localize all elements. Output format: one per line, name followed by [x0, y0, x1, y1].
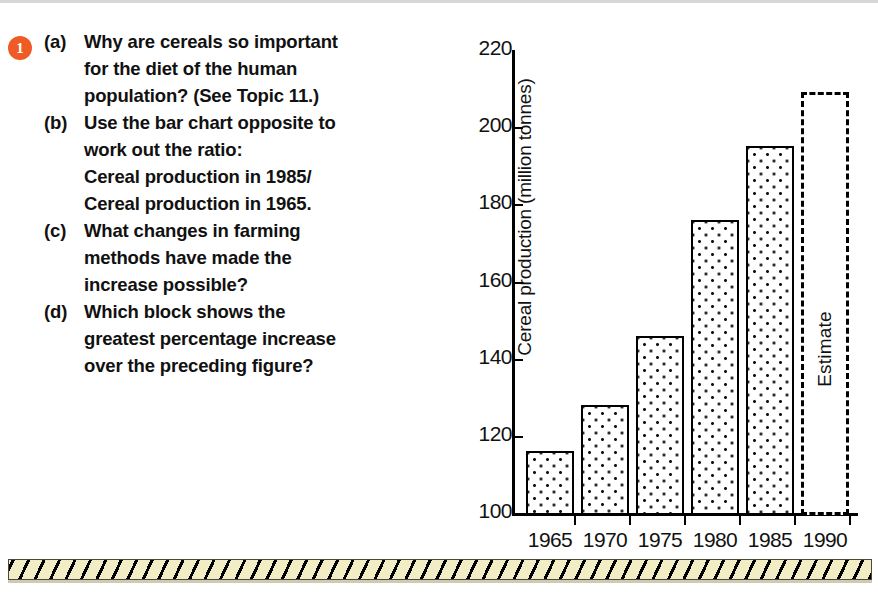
x-tick-label: 1990: [790, 528, 860, 552]
x-tick-mark: [684, 516, 686, 525]
question-label-a: (a): [44, 28, 78, 55]
decorative-hatched-band: [8, 559, 872, 580]
question-item-a: (a) Why are cereals so important for the…: [44, 28, 424, 109]
question-list: (a) Why are cereals so important for the…: [44, 28, 424, 379]
bar-series: 19651970197519801985Estimate1990: [440, 30, 878, 530]
question-line: work out the ratio:: [84, 136, 424, 163]
band-shadow: [8, 580, 872, 583]
question-line: for the diet of the human: [84, 55, 424, 82]
question-text-a: Why are cereals so important for the die…: [84, 28, 424, 109]
x-tick-mark: [739, 516, 741, 525]
question-text-c: What changes in farming methods have mad…: [84, 217, 424, 298]
question-label-d: (d): [44, 298, 78, 325]
question-text-d: Which block shows the greatest percentag…: [84, 298, 424, 379]
question-line: Why are cereals so important: [84, 28, 424, 55]
x-tick-mark: [849, 516, 851, 525]
question-line: methods have made the: [84, 244, 424, 271]
bar-1965: [526, 451, 574, 515]
question-label-b: (b): [44, 109, 78, 136]
y-tick-mark: [515, 282, 523, 284]
question-line: greatest percentage increase: [84, 325, 424, 352]
question-line: Use the bar chart opposite to: [84, 109, 424, 136]
question-line: Which block shows the: [84, 298, 424, 325]
bar-1975: [636, 336, 684, 515]
x-tick-mark: [629, 516, 631, 525]
question-item-d: (d) Which block shows the greatest perce…: [44, 298, 424, 379]
bar-chart: Cereal production (million tonnes) 10012…: [440, 30, 878, 550]
x-tick-mark: [794, 516, 796, 525]
question-item-b: (b) Use the bar chart opposite to work o…: [44, 109, 424, 217]
bar-1970: [581, 405, 629, 515]
y-tick-mark: [515, 513, 523, 515]
y-tick-mark: [515, 359, 523, 361]
question-label-c: (c): [44, 217, 78, 244]
question-line: Cereal production in 1985/: [84, 163, 424, 190]
question-line: population? (See Topic 11.): [84, 82, 424, 109]
question-text-b: Use the bar chart opposite to work out t…: [84, 109, 424, 217]
y-tick-mark: [515, 436, 523, 438]
question-item-c: (c) What changes in farming methods have…: [44, 217, 424, 298]
bar-1985: [746, 146, 794, 515]
bar-1980: [691, 220, 739, 515]
question-line: Cereal production in 1965.: [84, 190, 424, 217]
estimate-annotation-label: Estimate: [814, 289, 836, 409]
y-tick-mark: [515, 127, 523, 129]
x-tick-mark: [574, 516, 576, 525]
question-line: increase possible?: [84, 271, 424, 298]
top-divider: [0, 0, 878, 3]
question-line: over the preceding figure?: [84, 352, 424, 379]
page-root: 1 (a) Why are cereals so important for t…: [0, 0, 878, 592]
y-tick-mark: [515, 204, 523, 206]
question-number-badge: 1: [8, 36, 32, 60]
question-line: What changes in farming: [84, 217, 424, 244]
